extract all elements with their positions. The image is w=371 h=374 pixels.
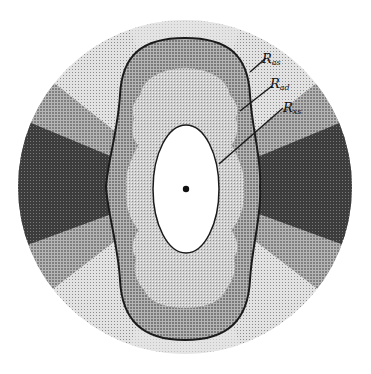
diagram-canvas: Ras Rad Rxs [0,0,371,374]
zone-diagram: Ras Rad Rxs [0,0,371,374]
source-point [183,186,189,192]
